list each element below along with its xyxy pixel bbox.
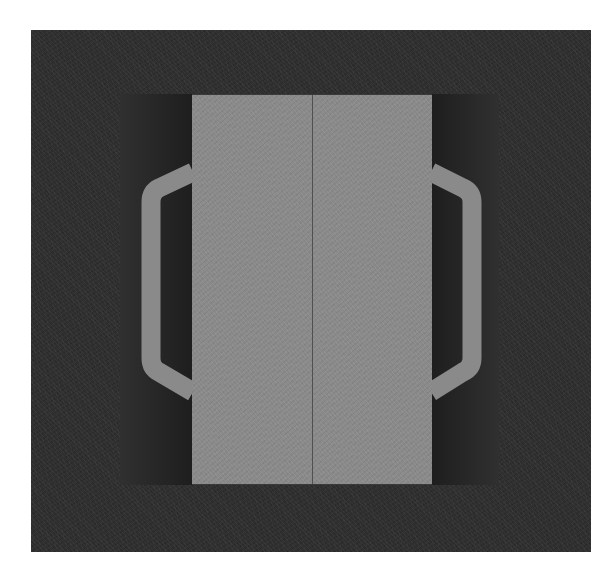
- central-panel: [192, 95, 432, 484]
- left-handle-icon: [151, 172, 193, 392]
- center-seam: [312, 95, 313, 484]
- right-handle-icon: [431, 172, 472, 392]
- photo: [31, 30, 591, 552]
